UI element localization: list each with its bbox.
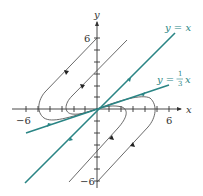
trajectory-inner-upper bbox=[66, 40, 127, 114]
arrow-icon bbox=[64, 70, 69, 75]
frac-denominator: 3 bbox=[178, 80, 182, 88]
y-axis bbox=[94, 22, 100, 188]
x-tick-label-neg6: −6 bbox=[16, 115, 31, 126]
phase-portrait-diagram: x −6 6 y 6 −6 bbox=[0, 0, 203, 196]
label-y-equals-third-x: y = 1 3 x bbox=[156, 70, 191, 88]
label-y-equals-x: y = x bbox=[164, 22, 191, 33]
x-tick-label-6: 6 bbox=[166, 115, 172, 126]
y-axis-label: y bbox=[93, 9, 100, 20]
frac-numerator: 1 bbox=[178, 70, 182, 78]
arrow-icon bbox=[80, 84, 85, 89]
label-suffix: x bbox=[185, 74, 191, 85]
label-prefix: y = bbox=[156, 74, 174, 85]
y-tick-label-neg6: −6 bbox=[80, 176, 95, 187]
trajectory-outer-lower bbox=[97, 97, 155, 182]
x-axis-label: x bbox=[186, 104, 192, 115]
trajectory-inner-lower bbox=[69, 106, 126, 182]
y-tick-label-6: 6 bbox=[84, 33, 90, 44]
arrow-icon bbox=[130, 142, 135, 147]
